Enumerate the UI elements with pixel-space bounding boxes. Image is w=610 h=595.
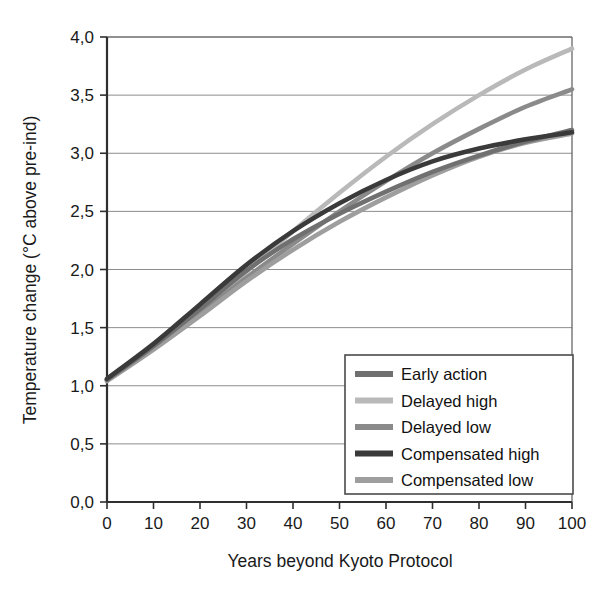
x-axis-title: Years beyond Kyoto Protocol — [227, 551, 452, 571]
x-tick-label: 70 — [423, 514, 442, 533]
y-tick-label: 3,5 — [70, 86, 94, 105]
y-tick-label: 0,0 — [70, 493, 94, 512]
x-tick-label: 30 — [237, 514, 256, 533]
x-tick-label: 20 — [191, 514, 210, 533]
y-tick-label: 1,0 — [70, 377, 94, 396]
y-tick-label: 4,0 — [70, 28, 94, 47]
y-tick-label: 0,5 — [70, 435, 94, 454]
y-tick-label: 2,0 — [70, 261, 94, 280]
x-tick-label: 80 — [470, 514, 489, 533]
x-tick-label: 90 — [516, 514, 535, 533]
legend-label: Delayed high — [401, 392, 497, 410]
x-tick-label: 50 — [330, 514, 349, 533]
x-tick-label: 100 — [558, 514, 586, 533]
legend-label: Compensated high — [401, 445, 540, 463]
temperature-projection-chart: 0,00,51,01,52,02,53,03,54,0 010203040506… — [0, 0, 610, 595]
y-tick-label: 2,5 — [70, 202, 94, 221]
legend-label: Compensated low — [401, 471, 533, 489]
chart-legend: Early actionDelayed highDelayed lowCompe… — [345, 355, 573, 494]
x-tick-label: 0 — [102, 514, 111, 533]
x-tick-label: 40 — [284, 514, 303, 533]
y-axis-tick-labels: 0,00,51,01,52,02,53,03,54,0 — [70, 28, 94, 512]
x-tick-label: 60 — [377, 514, 396, 533]
legend-label: Early action — [401, 365, 487, 383]
chart-canvas: 0,00,51,01,52,02,53,03,54,0 010203040506… — [0, 0, 610, 595]
x-tick-label: 10 — [144, 514, 163, 533]
y-axis-title: Temperature change (°C above pre-ind) — [20, 116, 40, 425]
legend-label: Delayed low — [401, 418, 491, 436]
y-tick-label: 1,5 — [70, 319, 94, 338]
y-tick-label: 3,0 — [70, 144, 94, 163]
